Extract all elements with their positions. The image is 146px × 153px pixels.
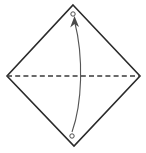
- top-reference-point-marker: [71, 12, 75, 16]
- bottom-reference-point-marker: [70, 134, 74, 138]
- fold-diagram-svg: [0, 0, 146, 153]
- diagram-canvas: Origami instruction diagram: a square sh…: [0, 0, 146, 153]
